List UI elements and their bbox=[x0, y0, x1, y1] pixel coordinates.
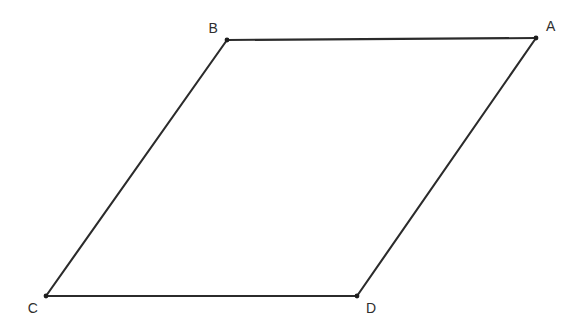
figure-canvas: A B C D bbox=[0, 0, 580, 334]
vertex-dot-d bbox=[355, 294, 360, 299]
vertex-label-a: A bbox=[546, 18, 556, 34]
vertex-label-b: B bbox=[208, 20, 218, 36]
vertex-dot-c bbox=[44, 294, 49, 299]
vertex-label-c: C bbox=[28, 300, 38, 316]
edge-a-d bbox=[357, 38, 536, 296]
edge-b-a bbox=[227, 38, 536, 40]
vertex-label-d: D bbox=[366, 300, 376, 316]
vertex-dot-b bbox=[225, 38, 230, 43]
edge-c-b bbox=[46, 40, 227, 296]
vertex-dot-a bbox=[534, 36, 539, 41]
parallelogram-diagram: A B C D bbox=[0, 0, 580, 334]
